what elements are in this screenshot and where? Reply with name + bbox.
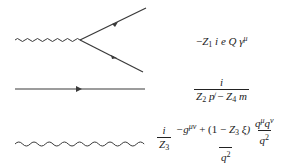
denominator: Z2 p̸ − Z4 m [194,89,249,106]
Z-subscript: 3 [235,128,239,137]
Z-subscript: 1 [208,40,212,49]
xi-symbol: ξ) [242,123,250,135]
Q-symbol: Q [229,35,237,47]
numerator: i [218,76,225,89]
Z-subscript: 2 [202,95,206,104]
photon-propagator-formula: i Z3 −gμν + (1 − Z3 ξ) qμqν q2 q2 [157,114,278,164]
q-superscript: ν [270,116,274,125]
q-superscript: 2 [226,150,230,159]
prefactor-fraction: i Z3 [157,124,171,154]
fraction: i Z2 p̸ − Z4 m [194,76,249,106]
gamma-superscript: μ [244,34,248,43]
numerator: i [161,124,168,137]
plus-term: + (1 − [199,123,229,135]
e-symbol: e [221,35,226,47]
Z-subscript: 4 [232,95,236,104]
denominator: Z3 [157,137,171,154]
inner-fraction: qμqν q2 [253,114,276,147]
main-fraction: −gμν + (1 − Z3 ξ) qμqν q2 q2 [174,114,278,164]
inner-numerator: qμqν [253,114,276,130]
metric-g: −g [176,123,189,135]
p-slash-symbol: p̸ [209,90,215,102]
vertex-photon-wavy-line [15,39,80,42]
m-symbol: m [239,90,247,102]
i-symbol: i [215,35,218,47]
photon-propagator-wavy-line [15,142,144,146]
minus-sign: − [217,90,223,102]
q-superscript: 2 [265,133,269,142]
inner-denominator: q2 [258,130,272,147]
g-superscript: μν [189,122,197,131]
main-denominator: q2 [219,147,233,164]
Z-subscript: 3 [165,143,169,152]
vertex-formula: −Z1 i e Q γμ [196,34,248,49]
fermion-propagator-formula: i Z2 p̸ − Z4 m [194,76,249,106]
arrow-icon [76,86,82,92]
main-numerator: −gμν + (1 − Z3 ξ) qμqν q2 [174,114,278,147]
